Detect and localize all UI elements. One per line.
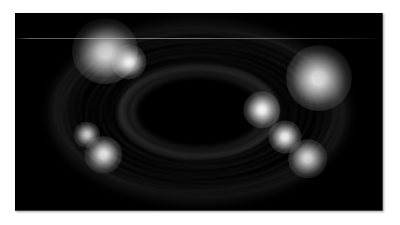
- plate-right-edge: [382, 13, 383, 211]
- detector-scan-line: [15, 38, 383, 39]
- knot-upper-left-inner-knot: [111, 44, 146, 79]
- screenshot-root: Black-and-white astronomical photograph …: [0, 0, 400, 225]
- ring-system-photograph: [15, 13, 383, 211]
- plate-bottom-edge: [15, 210, 383, 211]
- knot-right-knot: [286, 45, 352, 111]
- ring-knot-layer: [15, 13, 383, 211]
- knot-lower-right-outer-knot: [288, 139, 328, 179]
- ring-system: [15, 13, 383, 211]
